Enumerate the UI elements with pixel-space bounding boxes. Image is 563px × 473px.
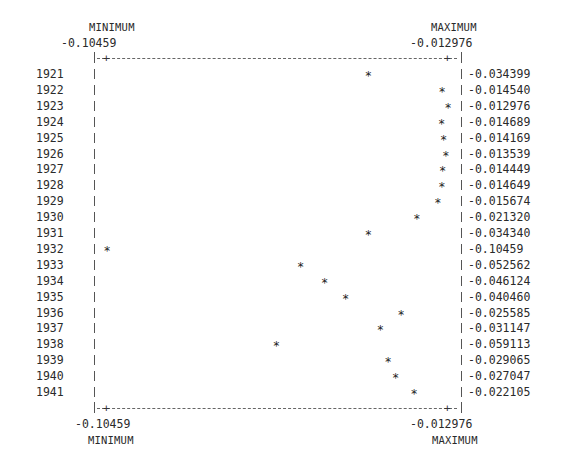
year-label: 1939 (36, 353, 64, 367)
year-label: 1924 (36, 115, 64, 129)
left-border (94, 69, 95, 79)
left-border (94, 355, 95, 365)
left-border (94, 387, 95, 397)
value-label: -0.015674 (468, 194, 530, 208)
left-border (94, 228, 95, 238)
data-point-marker: * (365, 70, 372, 82)
year-label: 1928 (36, 178, 64, 192)
left-border (94, 164, 95, 174)
data-point-marker: * (342, 293, 349, 305)
value-label: -0.014169 (468, 131, 530, 145)
value-label: -0.014449 (468, 162, 530, 176)
year-label: 1938 (36, 337, 64, 351)
left-border (94, 323, 95, 333)
left-border (94, 149, 95, 159)
right-border (461, 85, 462, 95)
data-point-marker: * (438, 181, 445, 193)
data-point-marker: * (377, 324, 384, 336)
value-label: -0.013539 (468, 147, 530, 161)
data-point-marker: * (297, 261, 304, 273)
right-border (461, 355, 462, 365)
value-label: -0.031147 (468, 321, 530, 335)
bottom-min-tick: + (103, 403, 110, 414)
data-point-marker: * (384, 356, 391, 368)
data-point-marker: * (442, 150, 449, 162)
year-label: 1937 (36, 321, 64, 335)
value-label: -0.040460 (468, 290, 530, 304)
bottom-max-value: -0.012976 (410, 417, 472, 431)
top-axis-line (97, 58, 457, 59)
value-label: -0.014540 (468, 83, 530, 97)
right-border (461, 164, 462, 174)
top-max-label: MAXIMUM (431, 20, 477, 34)
right-border (461, 180, 462, 190)
right-border (461, 260, 462, 270)
left-border (94, 212, 95, 222)
data-point-marker: * (365, 229, 372, 241)
data-point-marker: * (439, 86, 446, 98)
top-min-tick: + (103, 53, 110, 64)
left-border (94, 339, 95, 349)
left-border (94, 101, 95, 111)
right-border (461, 196, 462, 206)
year-label: 1921 (36, 67, 64, 81)
top-right-corner (461, 52, 462, 63)
bottom-axis-line (97, 408, 457, 409)
bottom-max-label: MAXIMUM (432, 433, 478, 447)
data-point-marker: * (438, 118, 445, 130)
value-label: -0.014689 (468, 115, 530, 129)
value-label: -0.046124 (468, 274, 530, 288)
year-label: 1925 (36, 131, 64, 145)
left-border (94, 371, 95, 381)
data-point-marker: * (321, 277, 328, 289)
right-border (461, 292, 462, 302)
year-label: 1923 (36, 99, 64, 113)
right-border (461, 339, 462, 349)
top-min-label: MINIMUM (89, 20, 135, 34)
value-label: -0.029065 (468, 353, 530, 367)
bottom-max-tick: + (444, 403, 451, 414)
value-label: -0.034340 (468, 226, 530, 240)
data-point-marker: * (439, 165, 446, 177)
left-border (94, 180, 95, 190)
right-border (461, 101, 462, 111)
right-border (461, 308, 462, 318)
year-label: 1931 (36, 226, 64, 240)
data-point-marker: * (434, 197, 441, 209)
data-point-marker: * (444, 102, 451, 114)
left-border (94, 292, 95, 302)
left-border (94, 117, 95, 127)
year-label: 1930 (36, 210, 64, 224)
year-label: 1936 (36, 306, 64, 320)
bottom-min-value: -0.10459 (75, 417, 130, 431)
bottom-min-label: MINIMUM (88, 433, 134, 447)
year-label: 1935 (36, 290, 64, 304)
right-border (461, 69, 462, 79)
value-label: -0.025585 (468, 306, 530, 320)
right-border (461, 387, 462, 397)
year-label: 1941 (36, 385, 64, 399)
value-label: -0.012976 (468, 99, 530, 113)
right-border (461, 228, 462, 238)
data-point-marker: * (397, 309, 404, 321)
top-max-tick: + (444, 53, 451, 64)
left-border (94, 260, 95, 270)
right-border (461, 276, 462, 286)
left-border (94, 133, 95, 143)
left-border (94, 196, 95, 206)
right-border (461, 149, 462, 159)
right-border (461, 212, 462, 222)
value-label: -0.027047 (468, 369, 530, 383)
value-label: -0.052562 (468, 258, 530, 272)
right-border (461, 371, 462, 381)
year-label: 1929 (36, 194, 64, 208)
data-point-marker: * (440, 134, 447, 146)
year-label: 1932 (36, 242, 64, 256)
top-min-value: -0.10459 (61, 36, 116, 50)
year-label: 1922 (36, 83, 64, 97)
year-label: 1933 (36, 258, 64, 272)
data-point-marker: * (413, 213, 420, 225)
data-point-marker: * (410, 388, 417, 400)
left-border (94, 308, 95, 318)
top-left-corner (94, 52, 95, 63)
